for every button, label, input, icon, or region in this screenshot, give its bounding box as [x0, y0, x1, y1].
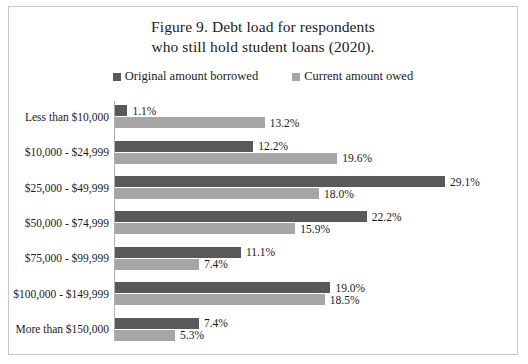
bar-group: 29.1%18.0%	[115, 173, 519, 203]
category-label: $10,000 - $24,999	[9, 146, 109, 158]
bar-value-label: 29.1%	[450, 176, 480, 188]
bar-rows: Less than $10,0001.1%13.2%$10,000 - $24,…	[9, 99, 519, 347]
bar-current[interactable]	[115, 117, 265, 128]
bar-line: 5.3%	[115, 330, 519, 341]
category-label: $50,000 - $74,999	[9, 217, 109, 229]
bar-original[interactable]	[115, 247, 241, 258]
bar-line: 1.1%	[115, 105, 519, 116]
legend-label-original: Original amount borrowed	[125, 69, 258, 84]
bar-original[interactable]	[115, 176, 445, 187]
bar-current[interactable]	[115, 153, 337, 164]
bar-current[interactable]	[115, 223, 295, 234]
legend-item-original: Original amount borrowed	[113, 69, 258, 84]
bar-value-label: 18.5%	[330, 294, 360, 306]
bar-group: 7.4%5.3%	[115, 314, 519, 344]
bar-row: Less than $10,0001.1%13.2%	[9, 102, 519, 132]
bar-original[interactable]	[115, 105, 127, 116]
bar-row: $75,000 - $99,99911.1%7.4%	[9, 243, 519, 273]
bar-original[interactable]	[115, 211, 367, 222]
bar-line: 18.5%	[115, 294, 519, 305]
chart-title-line-1: Figure 9. Debt load for respondents	[9, 17, 517, 37]
bar-original[interactable]	[115, 318, 199, 329]
bar-group: 11.1%7.4%	[115, 243, 519, 273]
bar-value-label: 12.2%	[258, 140, 288, 152]
bar-row: $10,000 - $24,99912.2%19.6%	[9, 137, 519, 167]
bar-line: 12.2%	[115, 141, 519, 152]
category-label: $75,000 - $99,999	[9, 252, 109, 264]
bar-current[interactable]	[115, 188, 319, 199]
category-label: More than $150,000	[9, 323, 109, 335]
chart-title: Figure 9. Debt load for respondents who …	[9, 17, 517, 57]
bar-row: $25,000 - $49,99929.1%18.0%	[9, 173, 519, 203]
bar-value-label: 19.6%	[342, 152, 372, 164]
bar-value-label: 19.0%	[335, 282, 365, 294]
category-label: Less than $10,000	[9, 111, 109, 123]
chart-title-line-2: who still hold student loans (2020).	[9, 37, 517, 57]
bar-current[interactable]	[115, 259, 199, 270]
bar-original[interactable]	[115, 282, 330, 293]
figure-frame: Figure 9. Debt load for respondents who …	[8, 6, 518, 355]
bar-line: 19.0%	[115, 282, 519, 293]
bar-line: 18.0%	[115, 188, 519, 199]
bar-line: 19.6%	[115, 153, 519, 164]
bar-line: 22.2%	[115, 211, 519, 222]
bar-group: 1.1%13.2%	[115, 102, 519, 132]
category-label: $25,000 - $49,999	[9, 182, 109, 194]
legend-item-current: Current amount owed	[292, 69, 413, 84]
bar-value-label: 7.4%	[204, 258, 228, 270]
bar-line: 7.4%	[115, 259, 519, 270]
bar-value-label: 1.1%	[132, 105, 156, 117]
category-label: $100,000 - $149,999	[9, 288, 109, 300]
bar-line: 11.1%	[115, 247, 519, 258]
bar-value-label: 13.2%	[270, 117, 300, 129]
bar-group: 19.0%18.5%	[115, 279, 519, 309]
bar-value-label: 22.2%	[372, 211, 402, 223]
bar-original[interactable]	[115, 141, 253, 152]
bar-group: 22.2%15.9%	[115, 208, 519, 238]
legend-swatch-original-icon	[113, 73, 121, 81]
bar-value-label: 15.9%	[300, 223, 330, 235]
bar-row: More than $150,0007.4%5.3%	[9, 314, 519, 344]
bar-current[interactable]	[115, 294, 325, 305]
bar-value-label: 11.1%	[246, 246, 275, 258]
bar-value-label: 7.4%	[204, 317, 228, 329]
plot-area: Less than $10,0001.1%13.2%$10,000 - $24,…	[9, 99, 519, 347]
chart-legend: Original amount borrowed Current amount …	[9, 69, 517, 84]
legend-label-current: Current amount owed	[304, 69, 413, 84]
bar-group: 12.2%19.6%	[115, 137, 519, 167]
bar-line: 15.9%	[115, 223, 519, 234]
bar-current[interactable]	[115, 330, 175, 341]
bar-value-label: 5.3%	[180, 329, 204, 341]
bar-value-label: 18.0%	[324, 188, 354, 200]
bar-line: 7.4%	[115, 318, 519, 329]
legend-swatch-current-icon	[292, 73, 300, 81]
bar-row: $50,000 - $74,99922.2%15.9%	[9, 208, 519, 238]
bar-line: 29.1%	[115, 176, 519, 187]
bar-line: 13.2%	[115, 117, 519, 128]
bar-row: $100,000 - $149,99919.0%18.5%	[9, 279, 519, 309]
